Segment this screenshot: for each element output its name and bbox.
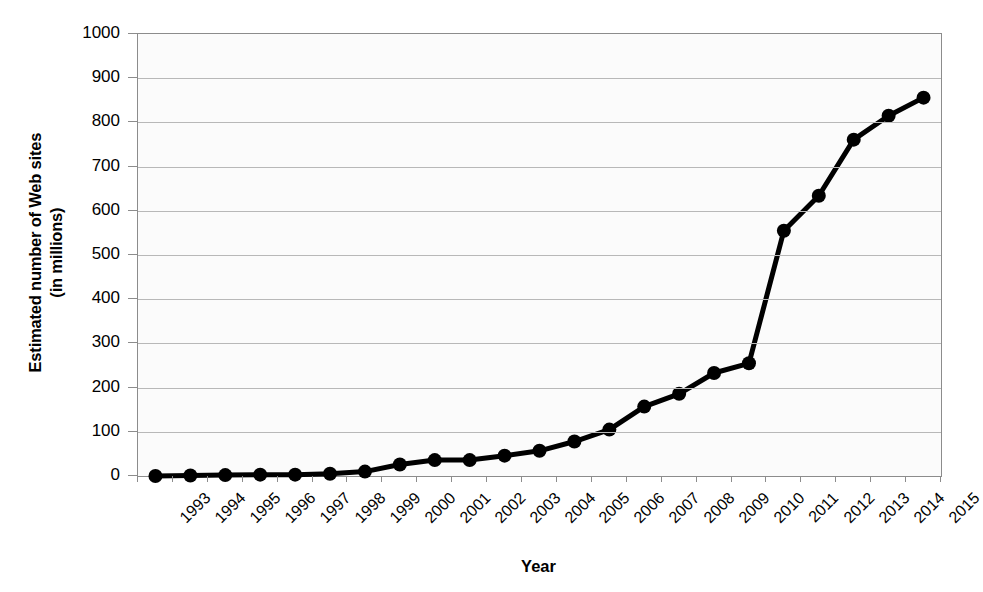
gridline — [138, 211, 941, 212]
x-axis-tick — [661, 476, 662, 482]
y-axis-tick-label: 700 — [92, 156, 120, 176]
y-axis-tick-label: 500 — [92, 244, 120, 264]
data-point-marker — [602, 423, 616, 437]
data-point-marker — [428, 453, 442, 467]
y-axis-tick-label: 800 — [92, 111, 120, 131]
x-axis-tick-label: 1998 — [351, 489, 389, 527]
y-axis-tick-label: 600 — [92, 200, 120, 220]
data-point-marker — [288, 468, 302, 482]
data-point-marker — [882, 109, 896, 123]
x-axis-tick — [626, 476, 627, 482]
gridline — [138, 78, 941, 79]
y-axis-tick — [128, 342, 137, 343]
y-axis-tick — [128, 210, 137, 211]
y-axis-tick — [128, 431, 137, 432]
x-axis-title: Year — [137, 557, 940, 576]
data-point-marker — [707, 366, 721, 380]
x-axis-tick — [486, 476, 487, 482]
gridline — [138, 255, 941, 256]
data-point-marker — [183, 469, 197, 483]
gridline — [138, 299, 941, 300]
x-axis-tick — [940, 476, 941, 482]
x-axis-tick-label: 2007 — [666, 489, 704, 527]
x-axis-tick-label: 1999 — [386, 489, 424, 527]
data-point-marker — [777, 224, 791, 238]
x-axis-tick-label: 2012 — [840, 489, 878, 527]
y-axis-tick — [128, 121, 137, 122]
x-axis-tick — [137, 476, 138, 482]
data-point-marker — [742, 356, 756, 370]
x-axis-tick-label: 2005 — [596, 489, 634, 527]
x-axis-tick-label: 1996 — [282, 489, 320, 527]
x-axis-tick — [696, 476, 697, 482]
data-point-marker — [567, 435, 581, 449]
y-axis-tick-label: 300 — [92, 332, 120, 352]
gridline — [138, 167, 941, 168]
x-axis-tick — [172, 476, 173, 482]
x-axis-tick — [800, 476, 801, 482]
x-axis-tick-label: 2004 — [561, 489, 599, 527]
x-axis-tick — [346, 476, 347, 482]
x-axis-tick-label: 1993 — [177, 489, 215, 527]
data-point-marker — [148, 469, 162, 483]
x-axis-tick — [870, 476, 871, 482]
data-point-marker — [917, 91, 931, 105]
x-axis-tick-label: 2008 — [701, 489, 739, 527]
x-axis-tick-label: 2011 — [805, 489, 842, 526]
x-axis-tick-label: 2015 — [945, 489, 983, 527]
x-axis-tick — [765, 476, 766, 482]
y-axis-tick — [128, 298, 137, 299]
y-axis-tick-label: 400 — [92, 288, 120, 308]
data-point-marker — [218, 468, 232, 482]
gridline — [138, 343, 941, 344]
x-axis-tick-label: 2001 — [456, 489, 494, 527]
x-axis-tick-label: 1995 — [247, 489, 285, 527]
gridline — [138, 388, 941, 389]
data-point-marker — [672, 387, 686, 401]
x-axis-tick-label: 2013 — [875, 489, 913, 527]
y-axis-tick-label: 100 — [92, 421, 120, 441]
y-axis-tick — [128, 475, 137, 476]
data-point-marker — [498, 449, 512, 463]
x-axis-tick — [381, 476, 382, 482]
x-axis-tick — [277, 476, 278, 482]
gridline — [138, 432, 941, 433]
y-axis-tick — [128, 254, 137, 255]
data-point-marker — [393, 458, 407, 472]
data-point-marker — [323, 467, 337, 481]
x-axis-tick-label: 1997 — [317, 489, 355, 527]
series-line — [155, 98, 923, 476]
y-axis-tick-label: 200 — [92, 377, 120, 397]
x-axis-tick — [416, 476, 417, 482]
y-axis-title-line-1: Estimated number of Web sites — [25, 43, 46, 463]
x-axis-tick — [451, 476, 452, 482]
data-point-marker — [533, 444, 547, 458]
x-axis-tick — [905, 476, 906, 482]
x-axis-tick — [556, 476, 557, 482]
gridline — [138, 122, 941, 123]
x-axis-tick-label: 2014 — [910, 489, 948, 527]
y-axis-tick — [128, 166, 137, 167]
y-axis-tick-label: 900 — [92, 67, 120, 87]
x-axis-tick-label: 1994 — [212, 489, 250, 527]
y-axis-tick-labels: 01002003004005006007008009001000 — [58, 33, 128, 475]
data-point-marker — [847, 133, 861, 147]
data-point-marker — [463, 453, 477, 467]
y-axis-tick-label: 0 — [111, 465, 120, 485]
x-axis-tick — [835, 476, 836, 482]
data-point-marker — [812, 189, 826, 203]
y-axis-tick-label: 1000 — [82, 23, 120, 43]
data-point-marker — [358, 465, 372, 479]
x-axis-tick-label: 2000 — [421, 489, 459, 527]
y-axis-tick — [128, 77, 137, 78]
x-axis-tick-label: 2002 — [491, 489, 529, 527]
x-axis-tick — [591, 476, 592, 482]
x-axis-tick — [312, 476, 313, 482]
data-point-marker — [253, 468, 267, 482]
data-point-marker — [637, 400, 651, 414]
x-axis-tick — [521, 476, 522, 482]
x-axis-tick — [207, 476, 208, 482]
y-axis-tick — [128, 33, 137, 34]
x-axis-tick-label: 2003 — [526, 489, 564, 527]
plot-area — [137, 33, 942, 477]
